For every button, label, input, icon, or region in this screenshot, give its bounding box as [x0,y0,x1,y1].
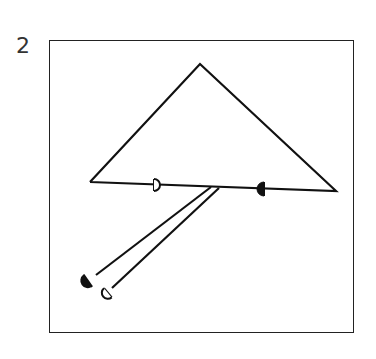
branch-line-upper [96,187,211,275]
triangle-diagram [0,0,376,359]
open-marker-icon [154,179,160,191]
branch-open-marker-icon [99,288,111,301]
branch-filled-marker-icon [77,275,92,292]
branch-line-lower [112,188,219,288]
filled-marker-icon [257,182,264,196]
triangle-outline [90,64,336,191]
